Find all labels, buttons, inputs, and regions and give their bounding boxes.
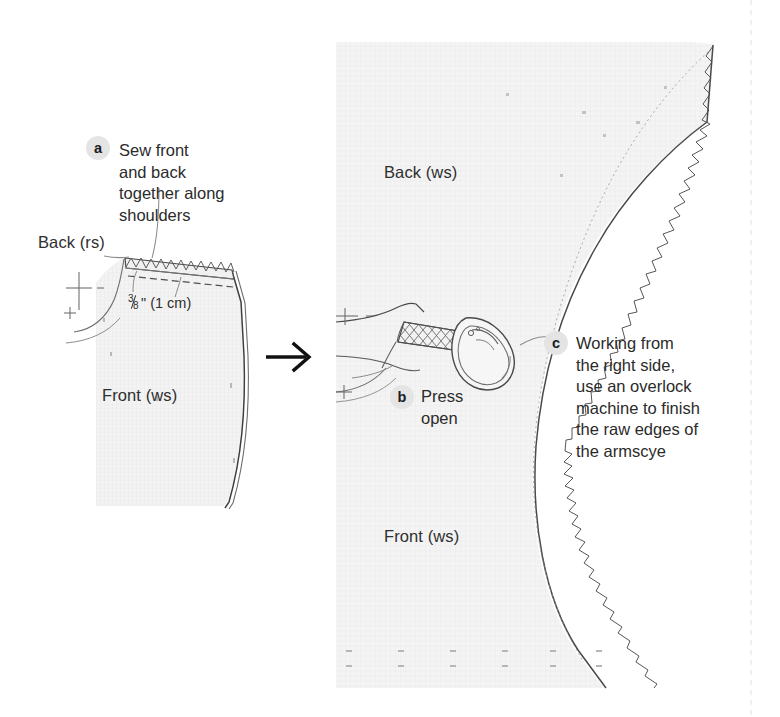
fraction-denominator: 8: [133, 300, 139, 311]
label-front-ws-right: Front (ws): [384, 527, 459, 546]
callout-text-a: Sew front and back together along should…: [119, 140, 269, 226]
label-back-rs: Back (rs): [38, 233, 105, 252]
label-front-ws-left: Front (ws): [102, 386, 177, 405]
label-seam-allowance: 38" (1 cm): [128, 295, 191, 311]
callout-badge-c[interactable]: c: [544, 331, 568, 355]
transition-arrow-icon: [266, 344, 309, 370]
leader-line-back-rs: [104, 256, 129, 258]
label-back-ws: Back (ws): [384, 163, 457, 182]
diagram-stage: a Sew front and back together along shou…: [0, 0, 780, 717]
callout-text-c: Working from the right side, use an over…: [576, 333, 751, 462]
callout-text-b: Press open: [421, 386, 511, 429]
callout-badge-a[interactable]: a: [86, 136, 110, 160]
seam-allowance-units: " (1 cm): [141, 295, 191, 311]
fraction-three-eighths: 38: [128, 295, 141, 310]
callout-badge-b[interactable]: b: [390, 385, 414, 409]
